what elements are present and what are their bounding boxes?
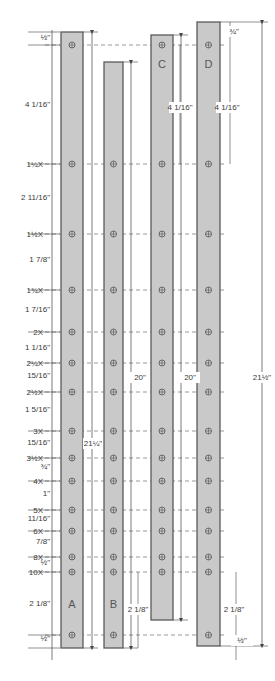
spacing-label: 1" — [43, 489, 50, 498]
hole-icon — [111, 478, 117, 484]
dimension-labels: 1¼X1½X1¾X2X2¼X2½X3X3½X4X5X6X8X10X½"4 1/1… — [21, 26, 272, 646]
hole-icon — [159, 455, 165, 461]
spacing-label: 4 1/16" — [25, 100, 50, 109]
hole-icon — [159, 554, 165, 560]
hole-icon — [159, 389, 165, 395]
hole-icon — [159, 507, 165, 513]
hole-icon — [111, 632, 117, 638]
hole-icon — [69, 287, 75, 293]
spacing-label: 1 5/16" — [25, 405, 50, 414]
multiplier-label: 6X — [33, 527, 43, 536]
hole-icon — [206, 231, 212, 237]
hole-icon — [206, 389, 212, 395]
hole-icon — [69, 161, 75, 167]
hole-icon — [111, 389, 117, 395]
hole-icon — [159, 360, 165, 366]
strip-c: C — [151, 35, 173, 620]
multiplier-label: 2¼X — [27, 359, 44, 368]
hole-icon — [69, 42, 75, 48]
hole-icon — [69, 329, 75, 335]
hole-icon — [69, 528, 75, 534]
spacing-label: 11/16" — [28, 514, 50, 523]
hole-icon — [206, 554, 212, 560]
hole-icon — [206, 528, 212, 534]
spacing-label: 15/16" — [27, 371, 50, 380]
hole-icon — [206, 428, 212, 434]
hole-icon — [111, 554, 117, 560]
multiplier-label: 1¾X — [27, 286, 44, 295]
hole-icon — [159, 329, 165, 335]
hole-icon — [69, 428, 75, 434]
overall-length-label: 20" — [134, 373, 146, 382]
hole-icon — [159, 42, 165, 48]
multiplier-label: 2X — [33, 328, 43, 337]
hole-icon — [206, 569, 212, 575]
hole-icon — [111, 428, 117, 434]
multiplier-label: 1½X — [27, 230, 44, 239]
overall-length-label: 21½" — [253, 373, 272, 382]
multiplier-label: 1¼X — [27, 160, 44, 169]
strip-d: D — [197, 22, 220, 646]
spacing-label: 7/8" — [36, 537, 50, 546]
hole-icon — [111, 455, 117, 461]
spacing-label: ½" — [40, 33, 50, 42]
hole-icon — [111, 569, 117, 575]
spacing-label: 15/16" — [27, 438, 50, 447]
hole-icon — [206, 478, 212, 484]
strip-a: A — [61, 32, 83, 648]
multiplier-label: 10X — [29, 568, 44, 577]
strip-label: C — [158, 58, 166, 70]
strip-label: B — [110, 598, 117, 610]
hole-icon — [69, 231, 75, 237]
hole-icon — [111, 161, 117, 167]
hole-icon — [159, 569, 165, 575]
hole-icon — [159, 478, 165, 484]
spacing-label: 2 1/8" — [29, 599, 50, 608]
hole-icon — [159, 231, 165, 237]
hole-icon — [159, 287, 165, 293]
hole-icon — [69, 478, 75, 484]
strip-label: A — [68, 598, 76, 610]
hole-icon — [111, 507, 117, 513]
spacing-label: ½" — [40, 634, 50, 643]
hole-icon — [159, 161, 165, 167]
hole-icon — [111, 329, 117, 335]
hole-icon — [111, 360, 117, 366]
hole-icon — [206, 455, 212, 461]
hole-icon — [69, 632, 75, 638]
multiplier-label: 3X — [33, 427, 43, 436]
spacing-label: ¾" — [40, 462, 50, 471]
inner-dimension-label: ¾" — [229, 27, 239, 36]
hole-icon — [206, 287, 212, 293]
hole-icon — [69, 507, 75, 513]
hole-icon — [69, 389, 75, 395]
spacing-label: ½" — [40, 558, 50, 567]
hole-icon — [206, 329, 212, 335]
hole-icon — [206, 161, 212, 167]
hole-icon — [69, 455, 75, 461]
inner-dimension-label: 4 1/16" — [214, 103, 239, 112]
inner-dimension-label: 4 1/16" — [167, 103, 192, 112]
hole-icon — [206, 42, 212, 48]
strip-dimension-drawing: ABCD 1¼X1½X1¾X2X2¼X2½X3X3½X4X5X6X8X10X½"… — [0, 0, 275, 681]
hole-icon — [69, 554, 75, 560]
inner-dimension-label: 2 1/8" — [224, 605, 245, 614]
hole-icon — [111, 528, 117, 534]
overall-length-label: 21¼" — [84, 439, 103, 448]
hole-icon — [159, 428, 165, 434]
hole-icon — [69, 569, 75, 575]
overall-length-label: 20" — [184, 373, 196, 382]
hole-icon — [159, 528, 165, 534]
hole-icon — [206, 360, 212, 366]
spacing-label: 1 1/16" — [25, 343, 50, 352]
strip-label: D — [205, 58, 213, 70]
hole-icon — [69, 360, 75, 366]
hole-icon — [111, 287, 117, 293]
hole-icon — [111, 231, 117, 237]
multiplier-label: 4X — [33, 477, 43, 486]
spacing-label: 1 7/8" — [29, 255, 50, 264]
multiplier-label: 2½X — [27, 388, 44, 397]
inner-dimension-label: 2 1/8" — [128, 605, 149, 614]
strip-b: B — [104, 62, 123, 648]
inner-dimension-label: ½" — [237, 636, 247, 645]
